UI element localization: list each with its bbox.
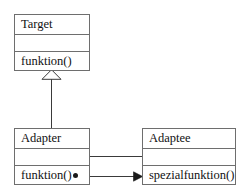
class-name-adaptee: Adaptee xyxy=(143,129,235,149)
class-attributes-adaptee xyxy=(143,149,235,166)
class-name-target: Target xyxy=(15,15,89,35)
uml-class-adapter[interactable]: Adapter funktion() xyxy=(14,128,90,185)
class-operations-adaptee: spezialfunktion() xyxy=(143,166,235,184)
class-operations-target: funktion() xyxy=(15,52,89,70)
class-name-adapter: Adapter xyxy=(15,129,89,149)
class-attributes-target xyxy=(15,35,89,52)
class-attributes-adapter xyxy=(15,149,89,166)
filled-dot-source-marker-icon xyxy=(73,173,78,178)
uml-class-target[interactable]: Target funktion() xyxy=(14,14,90,71)
generalization-shaft xyxy=(51,79,52,128)
uml-class-diagram: Target funktion() Adapter funktion() Ada… xyxy=(0,0,250,193)
association-line-adapter-adaptee xyxy=(90,156,142,157)
uml-class-adaptee[interactable]: Adaptee spezialfunktion() xyxy=(142,128,236,185)
